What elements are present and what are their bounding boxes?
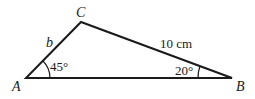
side-label-b: b — [46, 36, 53, 50]
angle-arc-b — [198, 66, 200, 78]
angle-label-a: 45° — [50, 60, 68, 73]
angle-label-b: 20° — [175, 64, 193, 77]
vertex-label-a: A — [12, 80, 21, 94]
vertex-label-c: C — [76, 6, 85, 20]
triangle-figure — [0, 0, 255, 99]
angle-arc-a — [43, 61, 50, 78]
vertex-label-b: B — [236, 80, 245, 94]
side-label-cb: 10 cm — [160, 37, 192, 50]
triangle-diagram: A B C b 10 cm 45° 20° — [0, 0, 255, 99]
